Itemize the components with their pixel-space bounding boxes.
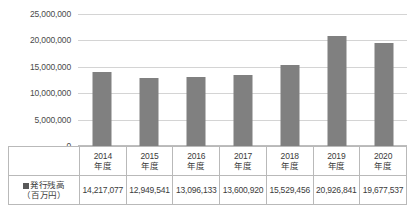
column-header-2015: 2015 年度 <box>126 147 173 176</box>
column-header-2018: 2018 年度 <box>266 147 313 176</box>
bar-2014 <box>92 72 111 147</box>
bar-column <box>360 14 407 146</box>
year-suffix: 年度 <box>173 161 219 171</box>
bar-series <box>78 14 407 146</box>
header-corner-blank <box>9 147 80 176</box>
year-value: 2019 <box>314 151 360 161</box>
value-cell-2020: 19,677,537 <box>360 176 407 205</box>
bar-2016 <box>186 77 205 146</box>
bar-column <box>172 14 219 146</box>
column-header-2019: 2019 年度 <box>313 147 360 176</box>
column-header-2020: 2020 年度 <box>360 147 407 176</box>
year-suffix: 年度 <box>127 161 173 171</box>
bar-column <box>78 14 125 146</box>
series-row-label: 発行残高 （百万円） <box>9 176 80 205</box>
year-suffix: 年度 <box>314 161 360 171</box>
table-data-row: 発行残高 （百万円） 14,217,077 12,949,541 13,096,… <box>9 176 407 205</box>
bar-2020 <box>374 43 393 146</box>
y-tick-label: 5,000,000 <box>7 116 71 125</box>
legend-swatch-icon <box>23 183 29 189</box>
value-cell-2014: 14,217,077 <box>80 176 127 205</box>
value-cell-2018: 15,529,456 <box>266 176 313 205</box>
value-cell-2016: 13,096,133 <box>173 176 220 205</box>
column-header-2016: 2016 年度 <box>173 147 220 176</box>
series-label-text: 発行残高 <box>30 180 65 190</box>
chart-page: 25,000,000 20,000,000 15,000,000 10,000,… <box>0 0 418 213</box>
column-header-2014: 2014 年度 <box>80 147 127 176</box>
year-suffix: 年度 <box>220 161 266 171</box>
bar-2019 <box>327 36 346 146</box>
column-header-2017: 2017 年度 <box>220 147 267 176</box>
table-header-row: 2014 年度 2015 年度 2016 年度 2017 年度 2018 年度 … <box>9 147 407 176</box>
year-value: 2016 <box>173 151 219 161</box>
y-tick-label: 10,000,000 <box>7 89 71 98</box>
series-label-line1: 発行残高 <box>9 180 79 190</box>
year-suffix: 年度 <box>80 161 126 171</box>
year-value: 2020 <box>360 151 406 161</box>
year-suffix: 年度 <box>267 161 313 171</box>
value-cell-2015: 12,949,541 <box>126 176 173 205</box>
y-tick-label: 15,000,000 <box>7 63 71 72</box>
bar-2018 <box>280 65 299 146</box>
year-value: 2018 <box>267 151 313 161</box>
value-cell-2017: 13,600,920 <box>220 176 267 205</box>
bar-column <box>219 14 266 146</box>
data-table: 2014 年度 2015 年度 2016 年度 2017 年度 2018 年度 … <box>8 146 407 205</box>
series-label-line2: （百万円） <box>9 190 79 200</box>
year-value: 2014 <box>80 151 126 161</box>
bar-2015 <box>139 78 158 146</box>
year-value: 2017 <box>220 151 266 161</box>
bar-column <box>125 14 172 146</box>
y-tick-label: 25,000,000 <box>7 10 71 19</box>
bar-2017 <box>233 75 252 146</box>
year-value: 2015 <box>127 151 173 161</box>
value-cell-2019: 20,926,841 <box>313 176 360 205</box>
bar-column <box>313 14 360 146</box>
y-tick-label: 20,000,000 <box>7 36 71 45</box>
year-suffix: 年度 <box>360 161 406 171</box>
bar-column <box>266 14 313 146</box>
